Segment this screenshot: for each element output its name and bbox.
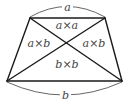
region-right-label: a×b bbox=[83, 37, 106, 50]
region-top-label: a×a bbox=[56, 19, 78, 32]
trapezoid-diagram: a b a×a a×b a×b b×b bbox=[0, 0, 127, 101]
left-leg bbox=[7, 18, 30, 81]
bottom-edge-label: b bbox=[62, 89, 69, 101]
region-bottom-label: b×b bbox=[55, 58, 78, 71]
region-left-label: a×b bbox=[28, 37, 51, 50]
top-edge-label: a bbox=[64, 1, 71, 14]
